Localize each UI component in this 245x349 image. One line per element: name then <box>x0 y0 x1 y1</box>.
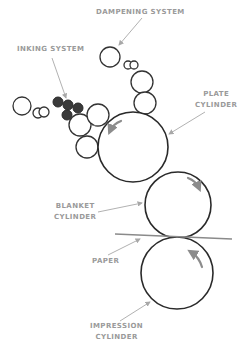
blanket-cylinder <box>145 172 211 238</box>
impression-cylinder <box>141 237 213 309</box>
blanket-cylinder-text-1: BLANKET <box>54 201 96 212</box>
ink-form-roller-3 <box>76 136 98 158</box>
inking-system-label: INKING SYSTEM <box>17 44 84 55</box>
blanket-leader-line <box>98 203 142 212</box>
ink-form-roller-2 <box>87 104 109 126</box>
impression-cylinder-text-1: IMPRESSION <box>90 321 143 332</box>
inking-system-text: INKING SYSTEM <box>17 45 84 53</box>
ink-small-roller-2 <box>39 107 49 117</box>
dampening-small-roller-2 <box>130 61 138 69</box>
paper-text: PAPER <box>92 257 119 265</box>
plate-cylinder-text-1: PLATE <box>195 89 237 100</box>
paper-leader-line <box>108 239 140 255</box>
dampening-system-label: DAMPENING SYSTEM <box>96 7 185 18</box>
dampening-roller-4 <box>134 92 156 114</box>
plate-cylinder-label: PLATE CYLINDER <box>195 89 237 111</box>
dampening-form-roller <box>100 47 120 67</box>
dampening-system <box>100 47 156 114</box>
inking-leader-line <box>52 58 66 98</box>
impression-cylinder-label: IMPRESSION CYLINDER <box>90 321 143 343</box>
dampening-leader-line <box>119 18 142 45</box>
impression-leader-line <box>120 302 150 321</box>
impression-cylinder-text-2: CYLINDER <box>90 332 143 343</box>
inked-roller-2 <box>63 100 73 110</box>
inked-roller-1 <box>53 97 63 107</box>
blanket-cylinder-label: BLANKET CYLINDER <box>54 201 96 223</box>
plate-cylinder-text-2: CYLINDER <box>195 100 237 111</box>
paper-label: PAPER <box>92 256 119 267</box>
dampening-system-text: DAMPENING SYSTEM <box>96 8 185 16</box>
plate-leader-line <box>169 112 205 134</box>
blanket-cylinder-text-2: CYLINDER <box>54 212 96 223</box>
dampening-roller-3 <box>131 71 153 93</box>
plate-cylinder <box>98 112 168 182</box>
ink-fountain-roller <box>13 97 31 115</box>
inking-system <box>13 97 109 158</box>
inked-roller-3 <box>73 103 83 113</box>
